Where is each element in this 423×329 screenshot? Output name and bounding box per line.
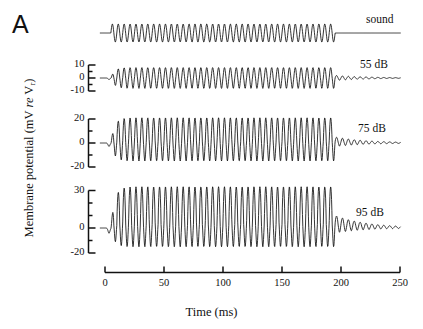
waveform-response-95dB: [100, 187, 400, 247]
figure-panel-a: A Membrane potential (mV re Vr) Time (ms…: [0, 0, 423, 329]
waveform-response-55dB: [100, 68, 400, 89]
waveform-sound: [100, 24, 400, 42]
waveform-plot: [0, 0, 423, 329]
waveform-response-75dB: [100, 118, 400, 161]
